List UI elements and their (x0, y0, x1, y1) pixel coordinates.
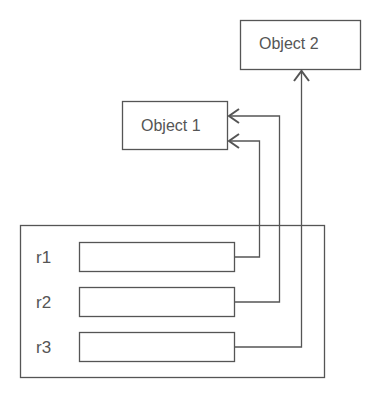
connector-r1 (229, 141, 260, 257)
row-label-r3: r3 (36, 339, 51, 356)
field-box-r2 (80, 288, 235, 317)
row-label-r2: r2 (36, 294, 51, 311)
object-1-label: Object 1 (141, 118, 201, 134)
reference-diagram (0, 0, 377, 395)
connector-r3 (235, 70, 302, 347)
row-label-r1: r1 (36, 249, 51, 266)
object-2-label: Object 2 (259, 36, 319, 52)
connector-r2 (229, 116, 280, 302)
field-box-r1 (80, 243, 235, 272)
field-box-r3 (80, 333, 235, 362)
